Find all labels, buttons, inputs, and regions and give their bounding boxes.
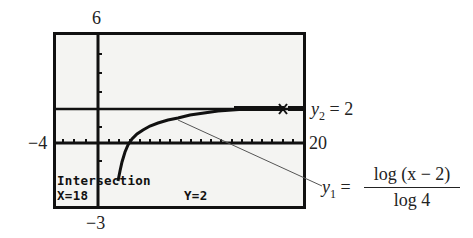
y2-label: y2 = 2: [311, 100, 353, 122]
y1-numerator: log (x − 2): [364, 164, 460, 187]
y1-fraction: log (x − 2) log 4: [364, 164, 460, 211]
y1-label: y1 =: [322, 178, 351, 200]
y1-denominator: log 4: [364, 188, 460, 211]
